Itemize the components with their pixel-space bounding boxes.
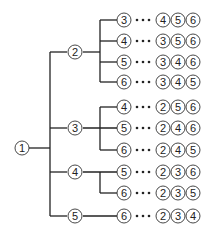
svg-text:4: 4 bbox=[72, 166, 78, 178]
svg-text:6: 6 bbox=[190, 122, 196, 134]
svg-text:2: 2 bbox=[160, 122, 166, 134]
svg-text:5: 5 bbox=[72, 210, 78, 222]
svg-text:2: 2 bbox=[160, 101, 166, 113]
svg-text:3: 3 bbox=[121, 14, 127, 26]
leaf-row: 5 2 3 6 bbox=[117, 165, 200, 179]
svg-text:6: 6 bbox=[190, 166, 196, 178]
svg-text:6: 6 bbox=[121, 144, 127, 156]
leaf-row: 6 2 4 5 bbox=[117, 143, 200, 157]
svg-text:5: 5 bbox=[175, 35, 181, 47]
leaf-row: 5 2 4 6 bbox=[117, 121, 200, 135]
branch-node-4: 4 bbox=[68, 165, 82, 179]
leaf-row: 4 3 5 6 bbox=[117, 34, 200, 48]
svg-text:5: 5 bbox=[175, 14, 181, 26]
svg-text:5: 5 bbox=[121, 56, 127, 68]
svg-text:4: 4 bbox=[175, 122, 181, 134]
svg-text:5: 5 bbox=[121, 122, 127, 134]
svg-text:1: 1 bbox=[19, 142, 25, 154]
svg-text:4: 4 bbox=[121, 35, 127, 47]
svg-text:2: 2 bbox=[160, 166, 166, 178]
leaf-row: 6 2 3 5 bbox=[117, 186, 200, 200]
svg-text:3: 3 bbox=[175, 166, 181, 178]
svg-text:4: 4 bbox=[190, 210, 196, 222]
svg-text:3: 3 bbox=[175, 210, 181, 222]
svg-text:3: 3 bbox=[160, 76, 166, 88]
svg-text:6: 6 bbox=[190, 101, 196, 113]
svg-text:3: 3 bbox=[160, 35, 166, 47]
svg-text:2: 2 bbox=[72, 46, 78, 58]
svg-text:2: 2 bbox=[160, 187, 166, 199]
svg-text:5: 5 bbox=[175, 101, 181, 113]
branch-node-5: 5 bbox=[68, 209, 82, 223]
svg-text:5: 5 bbox=[190, 187, 196, 199]
svg-text:5: 5 bbox=[190, 144, 196, 156]
root-node: 1 bbox=[15, 141, 29, 155]
svg-text:6: 6 bbox=[121, 76, 127, 88]
svg-text:2: 2 bbox=[160, 144, 166, 156]
svg-text:2: 2 bbox=[160, 210, 166, 222]
svg-text:3: 3 bbox=[175, 187, 181, 199]
svg-text:3: 3 bbox=[72, 122, 78, 134]
svg-text:4: 4 bbox=[175, 76, 181, 88]
svg-text:6: 6 bbox=[190, 14, 196, 26]
branch-node-3: 3 bbox=[68, 121, 82, 135]
branch-node-2: 2 bbox=[68, 45, 82, 59]
svg-text:3: 3 bbox=[160, 56, 166, 68]
svg-text:4: 4 bbox=[160, 14, 166, 26]
svg-text:4: 4 bbox=[175, 144, 181, 156]
svg-text:6: 6 bbox=[121, 187, 127, 199]
leaf-row: 6 2 3 4 bbox=[117, 209, 200, 223]
leaf-row: 5 3 4 6 bbox=[117, 55, 200, 69]
svg-text:5: 5 bbox=[190, 76, 196, 88]
leaf-row: 3 4 5 6 bbox=[117, 13, 200, 27]
svg-text:4: 4 bbox=[175, 56, 181, 68]
svg-text:4: 4 bbox=[121, 101, 127, 113]
svg-text:5: 5 bbox=[121, 166, 127, 178]
leaf-row: 4 2 5 6 bbox=[117, 100, 200, 114]
leaf-row: 6 3 4 5 bbox=[117, 75, 200, 89]
svg-text:6: 6 bbox=[121, 210, 127, 222]
svg-text:6: 6 bbox=[190, 56, 196, 68]
svg-text:6: 6 bbox=[190, 35, 196, 47]
tree-diagram: 1 2 3 4 5 3 4 5 6 bbox=[0, 0, 219, 233]
